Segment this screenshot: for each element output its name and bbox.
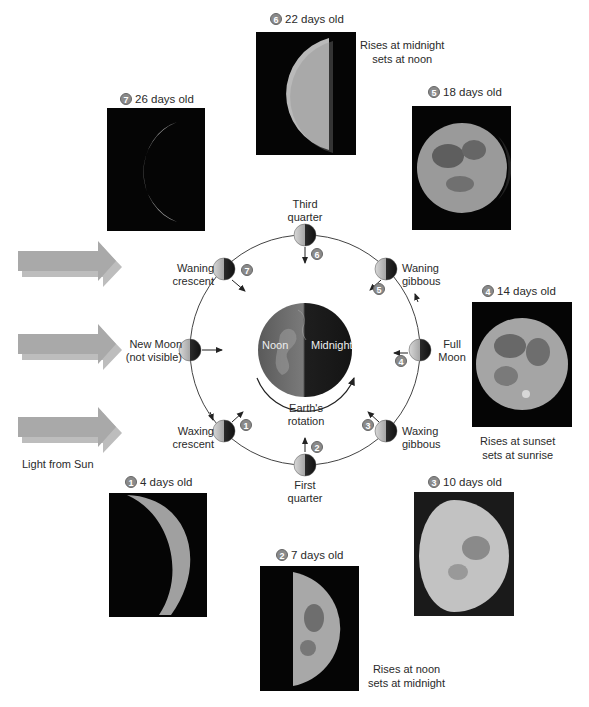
- moon-photo-10-days: [414, 492, 514, 616]
- step-badge: 2: [276, 549, 288, 561]
- phase-label-third-quarter: Third quarter: [280, 198, 330, 224]
- step-badge-7: 7: [241, 264, 253, 276]
- earth-rotation-label: Earth's rotation: [280, 402, 332, 428]
- step-badge-1: 1: [240, 419, 252, 431]
- phase-label-waxing-gibbous: Waxing gibbous: [402, 425, 450, 451]
- phase-label-waning-crescent: Waning crescent: [162, 262, 214, 288]
- step-badge-2: 2: [311, 441, 323, 453]
- earth-midnight-label: Midnight: [311, 339, 353, 352]
- phase-label-new-moon: New Moon (not visible): [118, 338, 182, 364]
- step-badge: 4: [482, 285, 494, 297]
- moon-photo-4-days: [109, 493, 207, 617]
- photo-title-10-days: 3 10 days old: [428, 476, 502, 488]
- step-badge-3: 3: [362, 419, 374, 431]
- step-badge-4: 4: [395, 355, 407, 367]
- moon-photo-7-days: [260, 566, 359, 691]
- moon-photo-26-days: [107, 108, 205, 231]
- note-third-quarter: Rises at midnight sets at noon: [360, 38, 444, 66]
- photo-title-14-days: 4 14 days old: [482, 285, 556, 297]
- step-badge: 7: [120, 93, 132, 105]
- earth-noon-label: Noon: [262, 339, 288, 352]
- moon-photo-14-days: [472, 302, 572, 427]
- note-full-moon: Rises at sunset sets at sunrise: [480, 434, 555, 462]
- phase-label-waning-gibbous: Waning gibbous: [402, 262, 450, 288]
- step-badge-5: 5: [373, 283, 385, 295]
- note-first-quarter: Rises at noon sets at midnight: [368, 662, 445, 690]
- photo-title-4-days: 1 4 days old: [125, 476, 192, 488]
- photo-title-22-days: 6 22 days old: [270, 13, 344, 25]
- step-badge: 5: [428, 86, 440, 98]
- light-from-sun-label: Light from Sun: [22, 458, 94, 471]
- step-badge: 3: [428, 476, 440, 488]
- phase-label-full-moon: Full Moon: [436, 338, 468, 364]
- photo-title-7-days: 2 7 days old: [276, 549, 343, 561]
- step-badge: 6: [270, 13, 282, 25]
- photo-title-18-days: 5 18 days old: [428, 86, 502, 98]
- phase-label-waxing-crescent: Waxing crescent: [166, 425, 214, 451]
- phase-label-first-quarter: First quarter: [280, 479, 330, 505]
- step-badge: 1: [125, 476, 137, 488]
- moon-photo-22-days: [256, 32, 356, 155]
- photo-title-26-days: 7 26 days old: [120, 93, 194, 105]
- sun-arrows: [18, 241, 122, 453]
- moon-photo-18-days: [412, 106, 511, 230]
- step-badge-6: 6: [311, 248, 323, 260]
